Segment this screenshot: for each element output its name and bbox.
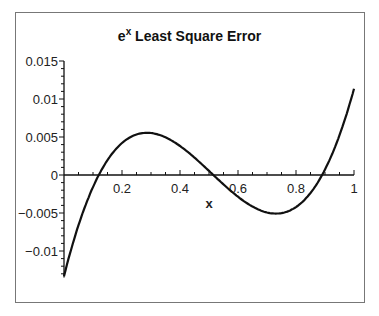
error-curve	[64, 89, 354, 276]
x-axis-label: x	[205, 196, 213, 211]
x-tick-label: 0.8	[287, 181, 305, 196]
x-tick-label: 0.4	[171, 181, 189, 196]
y-tick-label: −0.01	[25, 244, 58, 259]
y-tick-label: 0	[51, 168, 58, 183]
y-tick-label: 0.01	[33, 92, 58, 107]
y-tick-label: −0.005	[18, 206, 58, 221]
y-tick-label: 0.005	[25, 130, 58, 145]
x-tick-label: 1	[350, 181, 357, 196]
x-tick-label: 0.6	[229, 181, 247, 196]
chart-plot: 0.0150.010.0050−0.005−0.010.20.40.60.81x	[0, 0, 379, 316]
x-tick-label: 0.2	[113, 181, 131, 196]
axes: 0.0150.010.0050−0.005−0.010.20.40.60.81x	[18, 54, 358, 278]
y-tick-label: 0.015	[25, 54, 58, 69]
